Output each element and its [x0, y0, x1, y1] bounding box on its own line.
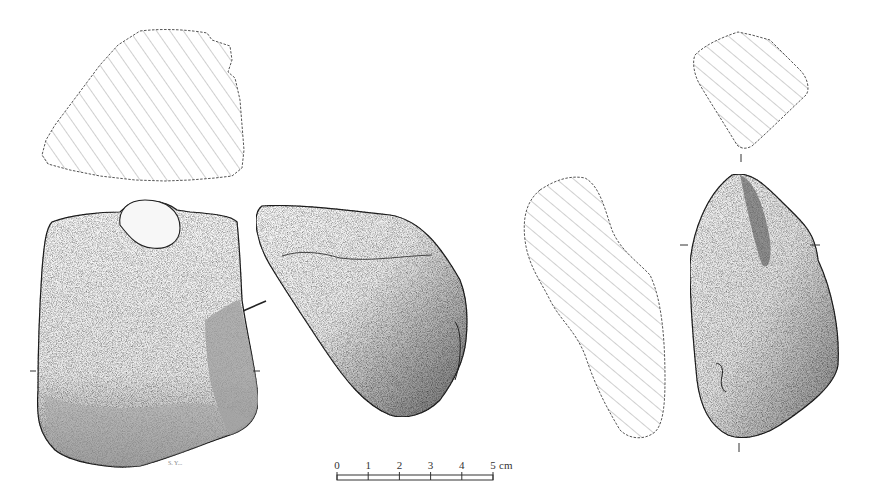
artifact-1-face-view: S. Y...: [30, 200, 260, 467]
scale-unit-label: cm: [499, 459, 513, 471]
artifact-1-cross-section-top: [42, 30, 244, 181]
stone-side-outline: [256, 205, 467, 416]
artifact-2-face-view: [680, 174, 838, 452]
orientation-mark: [243, 301, 266, 311]
scale-tick-label: 1: [365, 459, 371, 471]
scale-tick-label: 3: [428, 459, 434, 471]
artifact-2-cross-section-top: [694, 32, 808, 162]
artifact-2-cross-section-side: [524, 177, 665, 438]
illustrator-signature: S. Y...: [168, 460, 183, 466]
scale-tick-label: 2: [397, 459, 403, 471]
cross-section-outline: [42, 30, 244, 181]
scale-tick-label: 5: [490, 459, 496, 471]
cross-section-outline: [524, 177, 665, 438]
illustration-canvas: S. Y... 012345cm: [0, 0, 873, 502]
stone-face-outline: [690, 174, 838, 438]
scale-tick-label: 4: [459, 459, 465, 471]
scale-bar-frame: [337, 475, 493, 480]
scale-tick-label: 0: [334, 459, 340, 471]
artifact-1-side-view: [256, 205, 467, 416]
cross-section-outline: [694, 32, 808, 148]
scale-bar: 012345cm: [334, 459, 513, 480]
